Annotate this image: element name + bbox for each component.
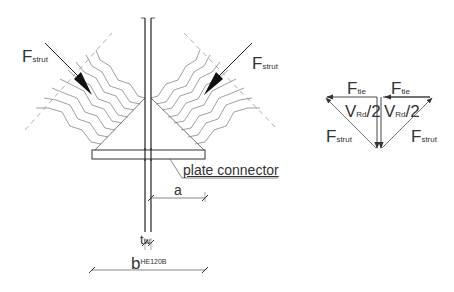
left-tie-force-label: Ftie [347, 80, 366, 97]
label-main: F [22, 47, 32, 66]
label-sub: Rd [395, 110, 405, 119]
label-sub: HE120B [140, 258, 166, 265]
label-main: F [391, 79, 401, 98]
right-concrete-strut [151, 33, 278, 150]
label-tail: /2 [367, 102, 381, 121]
label-main: F [326, 127, 336, 146]
label-tail: /2 [406, 102, 420, 121]
label-sub: w [144, 236, 151, 246]
plate-connector-label: plate connector [183, 163, 279, 177]
label-sub: Rd [356, 110, 366, 119]
dimension-a-label: a [174, 183, 182, 197]
label-sub: strut [421, 135, 437, 144]
label-main: V [345, 102, 356, 121]
label-sub: strut [32, 55, 48, 64]
right-tie-force-label: Ftie [391, 80, 410, 97]
label-sub: strut [262, 62, 278, 71]
dimension-tw-label: tw [140, 231, 150, 247]
right-strut-polygon-label: Fstrut [411, 128, 437, 145]
label-main: V [384, 102, 395, 121]
right-strut-force-label: Fstrut [252, 55, 278, 72]
label-sub: strut [336, 135, 352, 144]
right-shear-label: VRd/2 [384, 103, 420, 120]
left-strut-polygon-label: Fstrut [326, 128, 352, 145]
steel-web [141, 18, 155, 232]
label-sub: tie [357, 87, 365, 96]
left-shear-label: VRd/2 [345, 103, 381, 120]
label-sub: tie [401, 87, 409, 96]
left-strut-force-label: Fstrut [22, 48, 48, 65]
label-main: F [411, 127, 421, 146]
label-main: F [347, 79, 357, 98]
connection-drawing [0, 0, 454, 292]
label-main: F [252, 54, 262, 73]
dimension-b-label: bHE120B [131, 255, 167, 272]
